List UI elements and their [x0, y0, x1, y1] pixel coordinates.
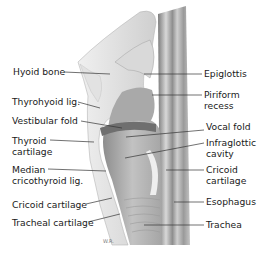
label-trachea: Trachea	[206, 219, 242, 230]
label-piriform-recess: Piriform recess	[204, 89, 240, 111]
label-piriform-recess-line1: Piriform	[204, 89, 240, 100]
label-piriform-recess-line2: recess	[204, 100, 240, 111]
artist-signature: W.R.	[103, 236, 114, 247]
label-tracheal-cartilage: Tracheal cartilage	[12, 217, 94, 228]
label-median-cricothyroid-line1: Median	[12, 164, 83, 175]
label-vocal-fold: Vocal fold	[206, 121, 251, 132]
label-infraglottic-cavity: Infraglottic cavity	[206, 137, 256, 159]
label-hyoid-bone: Hyoid bone	[13, 66, 65, 77]
label-cricoid-cartilage-right: Cricoid cartilage	[206, 164, 246, 186]
label-cricoid-cartilage-left: Cricoid cartilage	[12, 199, 87, 210]
label-median-cricothyroid-line2: cricothyroid lig.	[12, 175, 83, 186]
label-thyroid-cartilage: Thyroid cartilage	[12, 135, 52, 157]
label-thyrohyoid-lig: Thyrohyoid lig.	[12, 96, 80, 107]
label-thyroid-cartilage-line1: Thyroid	[12, 135, 52, 146]
label-median-cricothyroid-lig: Median cricothyroid lig.	[12, 164, 83, 186]
label-infraglottic-cavity-line1: Infraglottic	[206, 137, 256, 148]
label-epiglottis: Epiglottis	[204, 68, 247, 79]
label-cricoid-cartilage-right-line2: cartilage	[206, 175, 246, 186]
label-esophagus: Esophagus	[206, 196, 256, 207]
label-cricoid-cartilage-right-line1: Cricoid	[206, 164, 246, 175]
esophagus-shape	[158, 6, 190, 245]
label-thyroid-cartilage-line2: cartilage	[12, 146, 52, 157]
label-vestibular-fold: Vestibular fold	[12, 115, 78, 126]
label-infraglottic-cavity-line2: cavity	[206, 148, 256, 159]
